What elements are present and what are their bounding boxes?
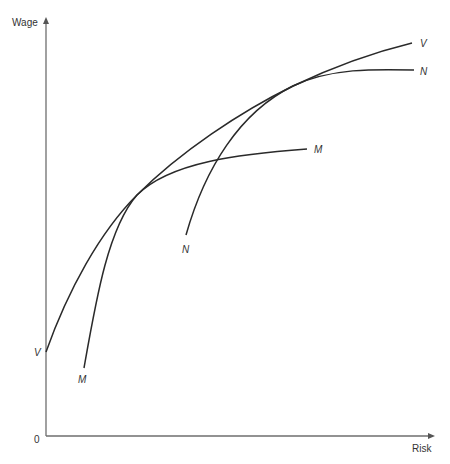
curve-m-label-end: M bbox=[314, 144, 323, 155]
curve-n-label-start: N bbox=[182, 244, 190, 255]
x-axis-label: Risk bbox=[412, 443, 432, 454]
curve-m-label-start: M bbox=[78, 374, 87, 385]
curve-n bbox=[186, 70, 414, 235]
curve-v bbox=[46, 43, 412, 352]
curve-v-label-start: V bbox=[34, 347, 42, 358]
y-axis-label: Wage bbox=[12, 17, 38, 28]
wage-risk-diagram: Wage Risk 0 V V M M N N bbox=[0, 0, 450, 464]
origin-label: 0 bbox=[34, 434, 40, 445]
curve-m bbox=[84, 149, 307, 368]
curve-v-label-end: V bbox=[420, 38, 428, 49]
curve-n-label-end: N bbox=[420, 66, 428, 77]
